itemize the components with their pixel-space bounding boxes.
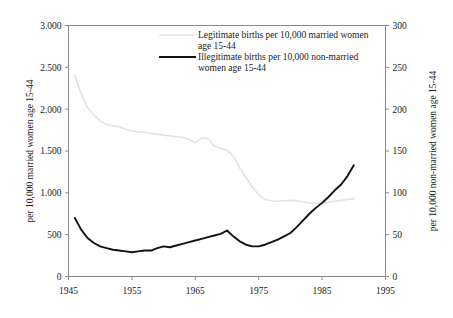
series-line-legitimate [75, 76, 354, 204]
x-tick-label: 1995 [376, 286, 395, 296]
y-tick-label-right: 50 [393, 230, 403, 240]
x-tick-label: 1985 [313, 286, 332, 296]
line-chart: 19451955196519751985199505001.0001.5002.… [0, 0, 453, 318]
y-tick-label-left: 0 [57, 272, 62, 282]
chart-legend: Legitimate births per 10,000 married wom… [159, 30, 369, 73]
x-tick-label: 1955 [122, 286, 141, 296]
y-tick-label-right: 200 [393, 105, 408, 115]
y-tick-label-left: 1.500 [40, 146, 62, 156]
x-tick-label: 1965 [186, 286, 205, 296]
y-tick-label-right: 250 [393, 63, 408, 73]
legend-label-line1: Illegitimate births per 10,000 non-marri… [198, 52, 358, 62]
chart-container: 19451955196519751985199505001.0001.5002.… [0, 0, 453, 318]
legend-label-line2: women age 15-44 [198, 63, 266, 73]
y-axis-right-title: per 10,000 non-married women age 15-44 [428, 71, 438, 232]
legend-label-line1: Legitimate births per 10,000 married wom… [198, 30, 369, 40]
y-tick-label-left: 2.000 [40, 105, 62, 115]
y-tick-label-right: 150 [393, 146, 408, 156]
y-tick-label-left: 3.000 [40, 21, 62, 31]
x-tick-label: 1975 [249, 286, 268, 296]
y-tick-label-right: 0 [393, 272, 398, 282]
y-tick-label-right: 100 [393, 188, 408, 198]
y-tick-label-left: 1.000 [40, 188, 62, 198]
y-tick-label-left: 2.500 [40, 63, 62, 73]
series-lines [75, 76, 354, 253]
series-line-illegitimate [75, 165, 354, 252]
x-tick-label: 1945 [59, 286, 78, 296]
y-tick-label-right: 300 [393, 21, 408, 31]
legend-label-line2: age 15-44 [198, 41, 236, 51]
y-tick-label-left: 500 [47, 230, 62, 240]
y-axis-left-title: per 10,000 married women age 15-44 [25, 79, 35, 222]
